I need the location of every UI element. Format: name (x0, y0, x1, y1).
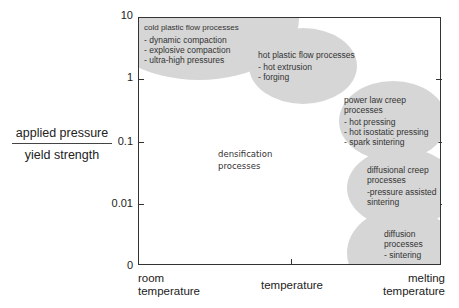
label-hot-plastic-flow: hot plastic flow processes - hot extrusi… (258, 50, 355, 82)
label-densification: densification processes (218, 148, 272, 172)
x-label-temperature: temperature (261, 279, 323, 292)
y-tick-0-01: 0.01 (103, 197, 133, 209)
label-cold-plastic-flow: cold plastic flow processes - dynamic co… (144, 23, 239, 65)
label-diffusion: diffusion processes - sintering (384, 229, 423, 260)
y-axis-label-numerator: applied pressure (12, 126, 112, 144)
y-axis-label: applied pressure yield strength (12, 126, 112, 162)
y-tick-10: 10 (103, 9, 133, 21)
label-diffusional-creep: diffusional creep processes -pressure as… (367, 165, 436, 207)
x-label-melting-temperature: melting temperature (383, 272, 445, 298)
y-tick-0-1: 0.1 (103, 135, 133, 147)
label-power-law-creep: power law creep processes - hot pressing… (344, 95, 429, 147)
y-tick-0: 0 (103, 259, 133, 271)
y-axis-label-denominator: yield strength (12, 144, 112, 162)
y-tick-1: 1 (103, 71, 133, 83)
x-label-room-temperature: room temperature (138, 272, 200, 298)
